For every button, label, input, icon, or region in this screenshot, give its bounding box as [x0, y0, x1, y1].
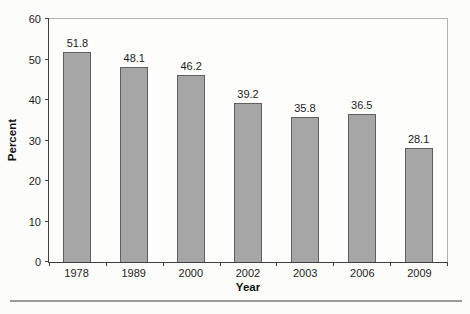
- page-divider-line: [10, 300, 462, 302]
- x-tick-mark: [163, 262, 164, 266]
- bars-container: 51.848.146.239.235.836.528.1: [49, 19, 447, 262]
- y-tick-label: 40: [29, 95, 41, 106]
- x-tick-label: 2006: [334, 267, 391, 279]
- x-axis-labels: 1978198920002002200320062009: [48, 267, 448, 279]
- bar: [291, 117, 319, 262]
- bar: [405, 148, 433, 262]
- bar-value-label: 48.1: [124, 52, 145, 64]
- x-tick-label: 2009: [391, 267, 448, 279]
- bar-slot: 28.1: [390, 19, 447, 262]
- x-tick-mark: [49, 262, 50, 266]
- bar-value-label: 39.2: [237, 88, 258, 100]
- x-axis-title: Year: [48, 281, 448, 293]
- bar-slot: 39.2: [220, 19, 277, 262]
- y-tick-label: 10: [29, 216, 41, 227]
- y-tick-mark: [45, 221, 49, 222]
- x-tick-mark: [333, 262, 334, 266]
- x-tick-label: 2002: [219, 267, 276, 279]
- bar: [348, 114, 376, 262]
- x-tick-mark: [220, 262, 221, 266]
- y-tick-label: 30: [29, 135, 41, 146]
- x-tick-label: 2000: [162, 267, 219, 279]
- y-tick-mark: [45, 180, 49, 181]
- x-tick-label: 2003: [277, 267, 334, 279]
- y-tick-label: 60: [29, 14, 41, 25]
- x-tick-label: 1978: [48, 267, 105, 279]
- y-tick-mark: [45, 99, 49, 100]
- x-tick-mark: [390, 262, 391, 266]
- bar-slot: 51.8: [49, 19, 106, 262]
- plot-area: 51.848.146.239.235.836.528.1 01020304050…: [48, 18, 448, 263]
- y-axis-title-wrap: Percent: [4, 18, 20, 263]
- y-tick-label: 20: [29, 176, 41, 187]
- bar-value-label: 46.2: [180, 60, 201, 72]
- bar-value-label: 36.5: [351, 99, 372, 111]
- bar-chart-figure: Percent 51.848.146.239.235.836.528.1 010…: [0, 0, 470, 314]
- bar-value-label: 51.8: [67, 37, 88, 49]
- y-tick-mark: [45, 18, 49, 19]
- bar: [120, 67, 148, 262]
- bar-slot: 36.5: [333, 19, 390, 262]
- bar-slot: 46.2: [163, 19, 220, 262]
- y-tick-mark: [45, 140, 49, 141]
- bar-slot: 35.8: [276, 19, 333, 262]
- x-tick-mark: [276, 262, 277, 266]
- bar-slot: 48.1: [106, 19, 163, 262]
- x-tick-mark: [447, 262, 448, 266]
- y-tick-label: 50: [29, 54, 41, 65]
- x-tick-mark: [106, 262, 107, 266]
- bar-value-label: 28.1: [408, 133, 429, 145]
- bar: [177, 75, 205, 262]
- y-axis-title: Percent: [6, 119, 18, 161]
- y-tick-mark: [45, 59, 49, 60]
- bar-value-label: 35.8: [294, 102, 315, 114]
- x-tick-label: 1989: [105, 267, 162, 279]
- y-tick-label: 0: [35, 257, 41, 268]
- bar: [234, 103, 262, 262]
- bar: [63, 52, 91, 262]
